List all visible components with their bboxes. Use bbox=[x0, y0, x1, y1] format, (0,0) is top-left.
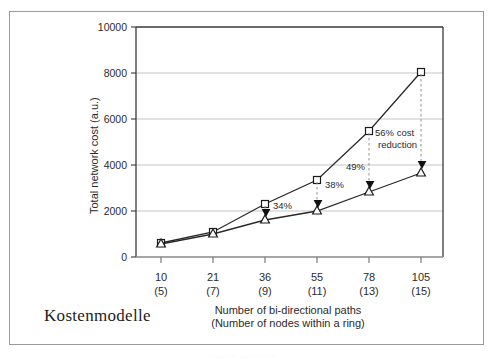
bottom-edge-artifact: ... .. .. . . .. bbox=[212, 350, 482, 359]
y-tick-labels: 0 2000 4000 6000 8000 10000 bbox=[98, 21, 127, 263]
x-tick-label: 105 bbox=[412, 271, 430, 283]
x-tick-label-secondary: (9) bbox=[258, 285, 271, 297]
x-axis-subtitle: (Number of nodes within a ring) bbox=[211, 317, 364, 329]
x-tick-marks bbox=[161, 257, 421, 263]
x-tick-label-secondary: (15) bbox=[411, 285, 431, 297]
x-axis-title: Number of bi-directional paths bbox=[215, 304, 362, 316]
annotation-49: 49% bbox=[346, 161, 366, 172]
y-tick-marks bbox=[131, 27, 136, 257]
x-tick-label: 21 bbox=[207, 271, 219, 283]
annotation-38: 38% bbox=[325, 179, 345, 190]
y-tick-label: 8000 bbox=[104, 67, 128, 79]
x-tick-labels-secondary: (5) (7) (9) (11) (13) (15) bbox=[154, 285, 431, 297]
x-tick-labels: 10 21 36 55 78 105 bbox=[155, 271, 430, 283]
y-axis-title: Total network cost (a.u.) bbox=[88, 97, 100, 214]
slide-caption: Kostenmodelle bbox=[44, 306, 151, 326]
x-tick-label: 78 bbox=[363, 271, 375, 283]
x-tick-label: 10 bbox=[155, 271, 167, 283]
y-tick-label: 2000 bbox=[104, 205, 128, 217]
annotation-34: 34% bbox=[273, 200, 293, 211]
y-tick-label: 6000 bbox=[104, 113, 128, 125]
slide: 0 2000 4000 6000 8000 10000 Total networ… bbox=[0, 0, 495, 359]
y-tick-label: 10000 bbox=[98, 21, 127, 33]
annotation-56-line2: reduction bbox=[378, 139, 417, 150]
x-tick-label: 36 bbox=[259, 271, 271, 283]
x-tick-label-secondary: (11) bbox=[308, 285, 327, 297]
y-tick-label: 0 bbox=[121, 251, 127, 263]
annotation-56-line1: 56% cost bbox=[375, 127, 414, 138]
x-tick-label: 55 bbox=[311, 271, 323, 283]
y-tick-label: 4000 bbox=[104, 159, 128, 171]
x-tick-label-secondary: (7) bbox=[206, 285, 219, 297]
x-tick-label-secondary: (13) bbox=[359, 285, 379, 297]
x-tick-label-secondary: (5) bbox=[154, 285, 167, 297]
